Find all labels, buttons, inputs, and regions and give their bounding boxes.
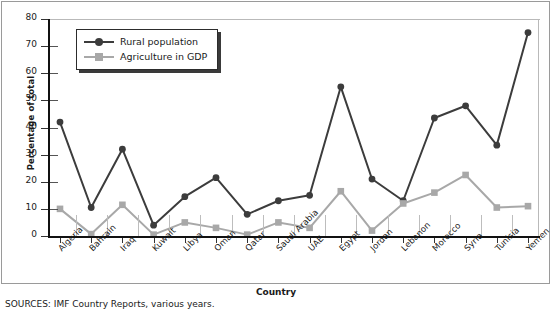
y-axis-inner-tick <box>50 100 58 101</box>
legend-entry-agriculture-in-gdp: Agriculture in GDP <box>84 49 207 64</box>
data-point-marker <box>244 211 251 218</box>
data-point-marker <box>275 197 282 204</box>
y-axis-tick-label: 50 <box>26 93 37 103</box>
y-axis-tick: 10 <box>41 209 48 210</box>
chart-figure: Percentage of total 01020304050607080 Al… <box>0 0 552 315</box>
y-axis-tick: 60 <box>41 73 48 74</box>
y-axis-tick: 30 <box>41 155 48 156</box>
y-axis-inner-tick <box>50 128 58 129</box>
y-axis-tick-label: 70 <box>26 39 37 49</box>
y-axis-inner-tick <box>50 73 58 74</box>
y-axis-inner-tick <box>50 182 58 183</box>
y-axis-tick-label: 80 <box>26 12 37 22</box>
plot-right-border <box>538 19 539 238</box>
data-point-marker <box>181 193 188 200</box>
y-axis-line <box>48 19 50 238</box>
y-axis-tick: 20 <box>41 182 48 183</box>
x-axis-minor-gridline <box>138 215 139 236</box>
legend-marker-square-icon <box>84 51 114 63</box>
data-point-marker <box>338 188 345 195</box>
y-axis-inner-tick <box>50 155 58 156</box>
data-point-marker <box>369 176 376 183</box>
y-axis-tick: 50 <box>41 100 48 101</box>
y-axis-tick-label: 60 <box>26 66 37 76</box>
y-axis-tick: 70 <box>41 46 48 47</box>
data-point-marker <box>57 119 64 126</box>
plot-top-border <box>48 19 540 20</box>
y-axis-tick-label: 10 <box>26 202 37 212</box>
data-point-marker <box>462 102 469 109</box>
data-point-marker <box>525 29 532 36</box>
y-axis-inner-tick <box>50 46 58 47</box>
data-point-marker <box>431 189 438 196</box>
data-point-marker <box>462 172 469 179</box>
data-point-marker <box>119 202 126 209</box>
chart-legend: Rural population Agriculture in GDP <box>76 29 218 70</box>
source-note: SOURCES: IMF Country Reports, various ye… <box>5 299 215 309</box>
y-axis-tick-label: 0 <box>31 229 37 239</box>
y-axis-tick: 80 <box>41 19 48 20</box>
data-point-marker <box>493 142 500 149</box>
data-point-marker <box>88 204 95 211</box>
x-axis-minor-gridline <box>325 215 326 236</box>
legend-entry-rural-population: Rural population <box>84 34 207 49</box>
data-point-marker <box>213 225 220 232</box>
x-axis-minor-gridline <box>481 215 482 236</box>
data-point-marker <box>525 203 532 210</box>
y-axis-tick: 0 <box>41 236 48 237</box>
y-axis-tick-label: 30 <box>26 148 37 158</box>
legend-label: Rural population <box>120 36 198 47</box>
data-point-marker <box>494 204 501 211</box>
legend-marker-circle-icon <box>84 36 114 48</box>
y-axis-tick-label: 40 <box>26 121 37 131</box>
data-point-marker <box>306 192 313 199</box>
y-axis-tick: 40 <box>41 128 48 129</box>
data-point-marker <box>213 174 220 181</box>
data-point-marker <box>337 83 344 90</box>
y-axis-tick-label: 20 <box>26 175 37 185</box>
data-point-marker <box>275 219 282 226</box>
data-point-marker <box>369 227 376 234</box>
x-axis-title: Country <box>0 287 552 297</box>
data-point-marker <box>182 219 189 226</box>
data-point-marker <box>150 222 157 229</box>
data-point-marker <box>119 146 126 153</box>
legend-label: Agriculture in GDP <box>120 51 207 62</box>
data-point-marker <box>431 115 438 122</box>
data-point-marker <box>400 200 407 207</box>
y-axis-inner-tick <box>50 209 58 210</box>
